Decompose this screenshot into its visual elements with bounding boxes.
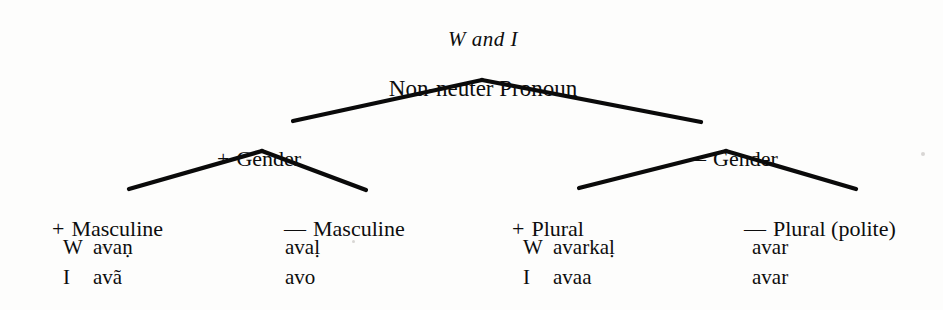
figure-title-text: W and I — [448, 27, 518, 51]
forms-plus-masculine: Wavaṇ Iavã — [63, 232, 133, 292]
word-form: avar — [752, 265, 788, 289]
tree-node-root-label: Non-neuter Pronoun — [389, 76, 577, 101]
forms-minus-plural: avar avar — [752, 232, 788, 292]
form-row: Iavaa — [523, 262, 615, 292]
language-code: W — [523, 232, 553, 262]
minus-sign-icon: — — [684, 148, 706, 170]
form-row: avar — [752, 262, 788, 292]
tree-diagram-figure: W and I Non-neuter Pronoun +Gender —Gend… — [0, 0, 943, 310]
word-form: avo — [285, 265, 315, 289]
word-form: avaḷ — [285, 235, 320, 259]
forms-plus-plural: Wavarkaḷ Iavaa — [523, 232, 615, 292]
plus-sign-icon: + — [217, 148, 229, 170]
tree-node-minus-gender-label: Gender — [713, 146, 778, 171]
form-row: avaḷ — [285, 232, 320, 262]
tree-node-plus-gender: +Gender — [195, 126, 301, 192]
language-code: I — [523, 262, 553, 292]
form-row: Wavarkaḷ — [523, 232, 615, 262]
tree-leaf-minus-masculine: —Masculine — [262, 196, 405, 262]
word-form: avã — [93, 265, 122, 289]
form-row: Iavã — [63, 262, 133, 292]
tree-leaf-minus-plural-label: Plural (polite) — [773, 216, 896, 241]
word-form: avaṇ — [93, 235, 133, 259]
word-form: avarkaḷ — [553, 235, 615, 259]
tree-leaf-minus-masculine-label: Masculine — [313, 216, 405, 241]
language-code: W — [63, 232, 93, 262]
tree-node-root: Non-neuter Pronoun — [0, 54, 943, 123]
scan-artifact — [921, 152, 925, 156]
word-form: avaa — [553, 265, 591, 289]
forms-minus-masculine: avaḷ avo — [285, 232, 320, 292]
form-row: Wavaṇ — [63, 232, 133, 262]
language-code: I — [63, 262, 93, 292]
tree-node-minus-gender: —Gender — [662, 126, 778, 192]
form-row: avo — [285, 262, 320, 292]
tree-node-plus-gender-label: Gender — [236, 146, 301, 171]
tree-leaf-minus-plural: —Plural (polite) — [722, 196, 896, 262]
word-form: avar — [752, 235, 788, 259]
form-row: avar — [752, 232, 788, 262]
